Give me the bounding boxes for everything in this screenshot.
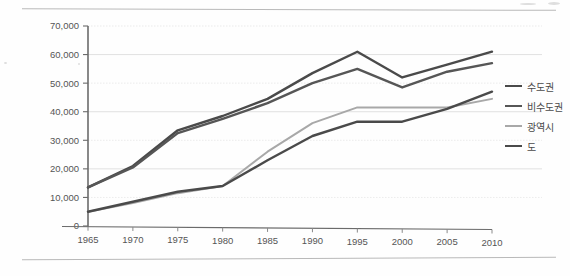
y-tick-label: 30,000 xyxy=(50,135,79,146)
legend-swatch-icon xyxy=(505,85,522,87)
chart-legend: 수도권비수도권광역시도 xyxy=(505,76,567,156)
y-tick-label: 40,000 xyxy=(50,106,79,117)
legend-item-3[interactable]: 도 xyxy=(505,136,567,156)
legend-item-2[interactable]: 광역시 xyxy=(505,116,567,136)
y-tick-label: 20,000 xyxy=(50,163,79,174)
x-tick-label: 2005 xyxy=(437,236,458,247)
data-series xyxy=(88,52,492,212)
x-tick-label: 1975 xyxy=(167,234,188,245)
x-axis-line xyxy=(62,227,492,230)
line-chart: 010,00020,00030,00040,00050,00060,00070,… xyxy=(0,0,570,276)
chart-svg: 010,00020,00030,00040,00050,00060,00070,… xyxy=(0,0,570,276)
y-tick-label: 10,000 xyxy=(50,192,79,203)
x-tick-label: 2000 xyxy=(392,236,413,247)
x-tick-label: 1965 xyxy=(77,234,98,245)
legend-swatch-icon xyxy=(505,125,522,127)
chart-page: 010,00020,00030,00040,00050,00060,00070,… xyxy=(0,0,570,276)
series-line-수도권 xyxy=(88,52,492,188)
y-tick-label: 60,000 xyxy=(50,49,79,60)
legend-item-0[interactable]: 수도권 xyxy=(505,76,567,96)
legend-item-label: 도 xyxy=(527,139,536,154)
x-axis-labels: 1965197019751980198519901995200020052010 xyxy=(77,234,502,248)
series-line-도 xyxy=(88,92,492,212)
x-tick-label: 1985 xyxy=(257,235,278,246)
x-tick-label: 1970 xyxy=(122,234,143,245)
x-tick-label: 1990 xyxy=(302,235,323,246)
legend-swatch-icon xyxy=(505,105,522,107)
x-tick-label: 2010 xyxy=(481,237,502,248)
y-tick-label: 0 xyxy=(74,220,79,231)
legend-item-1[interactable]: 비수도권 xyxy=(505,96,567,116)
legend-item-label: 광역시 xyxy=(527,119,554,134)
gridlines xyxy=(88,26,542,197)
x-tick-label: 1995 xyxy=(347,236,368,247)
legend-swatch-icon xyxy=(505,145,522,147)
y-tick-label: 70,000 xyxy=(50,20,79,31)
x-tick-label: 1980 xyxy=(212,235,233,246)
legend-item-label: 비수도권 xyxy=(527,99,563,114)
y-tick-label: 50,000 xyxy=(50,78,79,89)
legend-item-label: 수도권 xyxy=(527,79,554,94)
y-axis-labels: 010,00020,00030,00040,00050,00060,00070,… xyxy=(50,20,79,231)
